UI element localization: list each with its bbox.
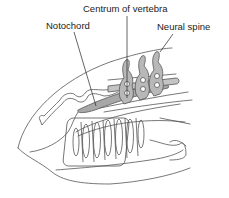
jaw-line: [30, 112, 78, 152]
vertebrae: [119, 52, 163, 104]
chordate-illustration: [0, 0, 229, 198]
leader-neural-spine: [160, 34, 173, 52]
gill-slits: [63, 118, 144, 166]
body-outline-dorsal: [18, 48, 172, 148]
